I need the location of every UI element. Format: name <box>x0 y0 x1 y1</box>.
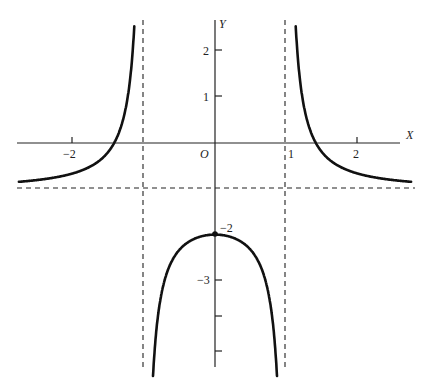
y-tick-label--2: −2 <box>220 221 233 235</box>
y-tick-label--3: −3 <box>197 273 210 287</box>
x-tick-label-2: 2 <box>353 147 359 161</box>
function-graph: Y X O −2 1 2 2 1 −2 −3 <box>0 0 428 385</box>
y-tick-label-1: 1 <box>203 90 209 104</box>
y-axis-label: Y <box>219 17 227 31</box>
axes <box>17 20 400 367</box>
asymptotes <box>17 20 415 370</box>
y-tick-label-2: 2 <box>203 44 209 58</box>
curve-left-branch <box>19 26 134 182</box>
origin-label: O <box>200 147 209 161</box>
x-tick-label-1: 1 <box>288 147 294 161</box>
x-tick-label--2: −2 <box>63 147 76 161</box>
x-axis-label: X <box>405 128 414 142</box>
max-point-marker <box>212 231 218 237</box>
